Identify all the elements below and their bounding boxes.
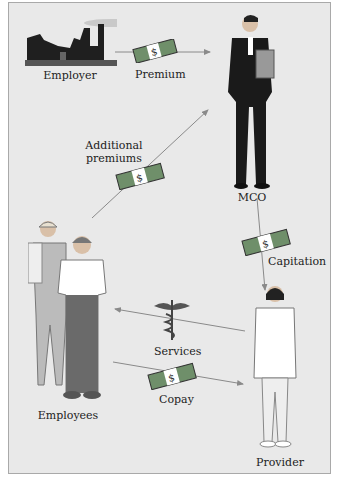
employees-label: Employees (28, 409, 108, 422)
services-label: Services (154, 345, 201, 358)
businessman-icon (222, 12, 288, 190)
additional-premiums-line1: Additional (84, 139, 144, 152)
money-icon: $ (114, 162, 166, 190)
money-icon: $ (240, 228, 292, 256)
money-icon: $ (146, 362, 198, 390)
capitation-label: Capitation (268, 255, 326, 268)
doctor-icon (250, 282, 300, 452)
employer-label: Employer (30, 69, 110, 82)
premium-label: Premium (135, 68, 186, 81)
provider-label: Provider (250, 456, 310, 469)
money-icon: $ (131, 39, 179, 63)
copay-label: Copay (159, 393, 194, 406)
workers-icon (28, 215, 118, 405)
factory-icon (22, 16, 117, 66)
caduceus-icon (152, 298, 192, 342)
mco-label: MCO (232, 191, 272, 204)
